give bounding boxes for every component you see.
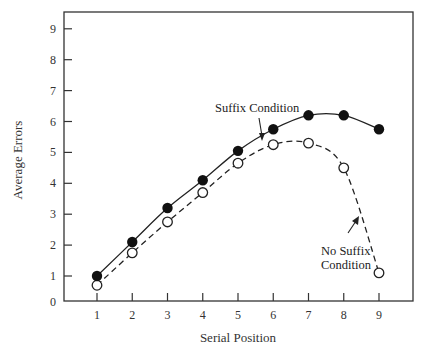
x-tick-label: 4 [200,308,206,322]
nosuffix-annotation-line1: No Suffix [321,244,371,258]
no-suffix-point [233,158,243,168]
y-tick-label: 5 [50,145,56,159]
suffix-point [92,271,102,281]
suffix-point [303,110,313,120]
suffix-point [127,237,137,247]
y-axis-title: Average Errors [10,121,25,200]
x-tick-label: 2 [129,308,135,322]
x-tick-label: 9 [376,308,382,322]
suffix-annotation: Suffix Condition [215,101,300,115]
suffix-arrow-icon [259,118,265,141]
x-tick-label: 5 [235,308,241,322]
y-tick-label: 8 [50,53,56,67]
suffix-point [162,203,172,213]
suffix-point [268,124,278,134]
suffix-point [233,146,243,156]
no-suffix-point [339,163,349,173]
y-tick-label: 4 [50,176,56,190]
x-tick-label: 7 [306,308,312,322]
y-tick-label: 9 [50,22,56,36]
x-tick-label: 3 [165,308,171,322]
y-tick-label: 1 [50,269,56,283]
no-suffix-point [127,248,137,258]
nosuffix-arrow-icon [348,216,359,233]
no-suffix-point [304,138,314,148]
x-tick-label: 8 [341,308,347,322]
x-axis-ticks: 123456789 [94,293,382,322]
serial-position-chart: 123456789 123456789 0 Serial Position Av… [0,0,426,349]
y-tick-label: 2 [50,238,56,252]
no-suffix-point [198,188,208,198]
x-tick-label: 6 [270,308,276,322]
suffix-point [374,124,384,134]
no-suffix-point [163,217,173,227]
no-suffix-point [268,140,278,150]
nosuffix-annotation-line2: Condition [321,258,372,272]
y-tick-label: 6 [50,115,56,129]
suffix-point [198,175,208,185]
suffix-point [339,110,349,120]
origin-label: 0 [50,295,56,309]
no-suffix-point [92,280,102,290]
y-tick-label: 3 [50,207,56,221]
y-tick-label: 7 [50,84,56,98]
y-axis-ticks: 123456789 [50,22,72,283]
x-tick-label: 1 [94,308,100,322]
x-axis-title: Serial Position [200,330,277,345]
no-suffix-point [374,268,384,278]
